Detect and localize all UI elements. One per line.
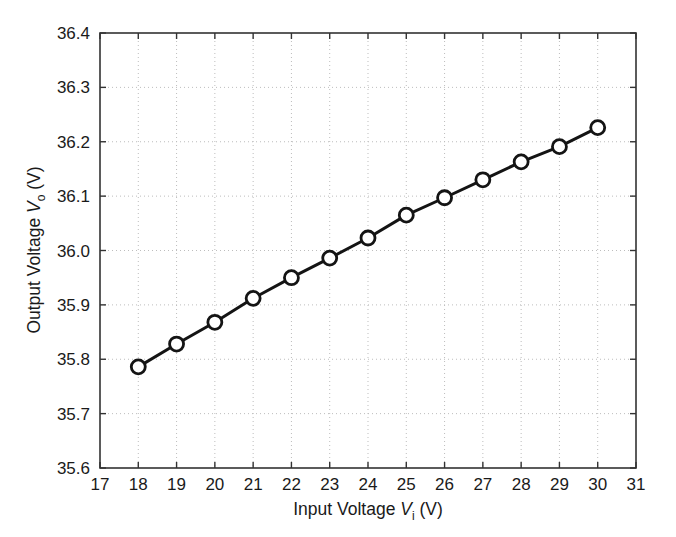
x-tick-label: 21 [244,475,263,494]
y-tick-label: 35.8 [57,350,90,369]
y-tick-label: 35.9 [57,296,90,315]
x-tick-label: 29 [550,475,569,494]
data-point-marker [591,121,605,135]
y-tick-labels: 35.635.735.835.936.036.136.236.336.4 [57,24,90,478]
x-tick-label: 22 [282,475,301,494]
x-tick-label: 18 [129,475,148,494]
data-point-marker [438,191,452,205]
x-tick-label: 30 [588,475,607,494]
x-tick-label: 19 [167,475,186,494]
y-tick-label: 36.2 [57,133,90,152]
data-point-marker [552,140,566,154]
x-tick-label: 23 [320,475,339,494]
x-tick-label: 20 [205,475,224,494]
data-point-marker [208,315,222,329]
x-tick-label: 27 [473,475,492,494]
data-point-marker [246,291,260,305]
data-point-marker [514,155,528,169]
data-point-marker [170,337,184,351]
y-tick-label: 35.6 [57,459,90,478]
x-tick-label: 31 [627,475,646,494]
x-tick-label: 25 [397,475,416,494]
data-point-marker [284,271,298,285]
line-chart: 171819202122232425262728293031 35.635.73… [0,0,676,537]
x-tick-labels: 171819202122232425262728293031 [91,475,646,494]
y-tick-label: 35.7 [57,405,90,424]
y-tick-label: 36.0 [57,242,90,261]
data-point-marker [399,208,413,222]
chart-background [0,0,676,537]
data-point-marker [361,231,375,245]
x-tick-label: 24 [359,475,378,494]
y-tick-label: 36.1 [57,187,90,206]
y-tick-label: 36.4 [57,24,90,43]
data-point-marker [323,251,337,265]
data-point-marker [476,173,490,187]
x-tick-label: 17 [91,475,110,494]
x-tick-label: 26 [435,475,454,494]
chart-figure: 171819202122232425262728293031 35.635.73… [0,0,676,537]
x-tick-label: 28 [512,475,531,494]
y-tick-label: 36.3 [57,78,90,97]
data-point-marker [131,360,145,374]
